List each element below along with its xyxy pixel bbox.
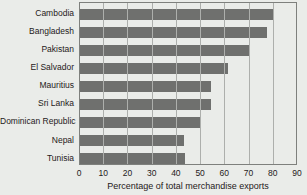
gridline: [200, 3, 201, 164]
x-tick-label: 10: [98, 169, 107, 178]
category-label: Tunisia: [0, 154, 74, 163]
gridline: [103, 3, 104, 164]
x-tick-label: 90: [292, 169, 301, 178]
gridline: [176, 3, 177, 164]
category-label: Nepal: [0, 136, 74, 145]
x-tick-label: 80: [268, 169, 277, 178]
gridline: [127, 3, 128, 164]
bar-chart: CambodiaBangladeshPakistanEl SalvadorMau…: [0, 0, 307, 195]
bar: [80, 81, 211, 92]
bar: [80, 99, 211, 110]
category-label: Dominican Republic: [0, 117, 74, 126]
x-tick-label: 60: [220, 169, 229, 178]
bar: [80, 153, 185, 164]
gridline: [249, 3, 250, 164]
x-axis-title: Percentage of total merchandise exports: [74, 181, 302, 191]
gridline: [273, 3, 274, 164]
plot-area: [79, 2, 297, 165]
x-tick-label: 40: [171, 169, 180, 178]
x-tick-label: 20: [123, 169, 132, 178]
category-label: Cambodia: [0, 9, 74, 18]
bar: [80, 63, 228, 74]
bar: [80, 27, 267, 38]
category-label: Mauritius: [0, 81, 74, 90]
x-tick-label: 30: [147, 169, 156, 178]
category-label: El Salvador: [0, 63, 74, 72]
gridline: [152, 3, 153, 164]
bar: [80, 117, 201, 128]
category-label: Pakistan: [0, 45, 74, 54]
x-tick-label: 0: [77, 169, 82, 178]
bar: [80, 9, 274, 20]
category-label: Sri Lanka: [0, 99, 74, 108]
bar: [80, 135, 184, 146]
x-tick-label: 50: [195, 169, 204, 178]
gridline: [224, 3, 225, 164]
x-tick-label: 70: [244, 169, 253, 178]
category-label: Bangladesh: [0, 27, 74, 36]
